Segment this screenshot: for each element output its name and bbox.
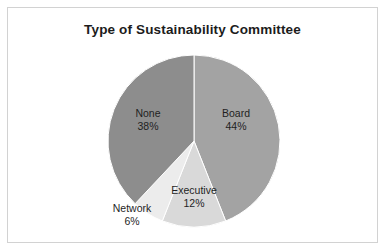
pie-label-network: Network6% — [113, 202, 152, 227]
pie-label-name: Network — [113, 202, 152, 215]
pie-label-none: None38% — [135, 107, 160, 132]
pie-label-value: 44% — [222, 119, 250, 132]
pie-label-name: None — [135, 107, 160, 120]
pie-label-value: 38% — [135, 119, 160, 132]
pie-svg — [8, 8, 379, 244]
pie-chart: Board44%Executive12%Network6%None38% — [8, 8, 379, 244]
pie-label-value: 12% — [171, 196, 217, 209]
pie-label-name: Board — [222, 107, 250, 120]
pie-label-value: 6% — [113, 214, 152, 227]
pie-label-executive: Executive12% — [171, 184, 217, 209]
pie-label-name: Executive — [171, 184, 217, 197]
chart-frame: Type of Sustainability Committee Board44… — [7, 7, 378, 243]
pie-label-board: Board44% — [222, 107, 250, 132]
